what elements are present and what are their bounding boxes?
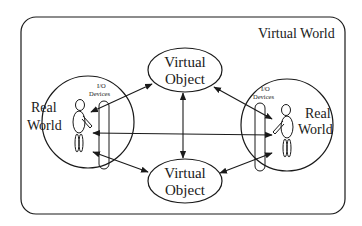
real-world-left-label-line2: World: [27, 118, 62, 133]
real-world-left: Real World I/O Devices: [27, 76, 134, 169]
real-world-right-label-line2: World: [298, 122, 333, 137]
virtual-object-bottom-line2: Object: [165, 182, 206, 198]
person-icon-left: [73, 100, 92, 153]
io-devices-right-label-line1: I/O: [261, 85, 270, 92]
virtual-world-diagram: Virtual World Real World I/O Devices Rea…: [0, 0, 362, 226]
arrow-right-to-bottom-object: [220, 153, 272, 173]
real-world-right: Real World I/O Devices: [241, 79, 333, 171]
io-devices-right-label-line2: Devices: [253, 93, 274, 100]
virtual-object-top: Virtual Object: [148, 48, 222, 92]
real-world-left-label-line1: Real: [31, 100, 57, 115]
io-devices-left-label-line1: I/O: [97, 82, 106, 89]
virtual-world-label: Virtual World: [258, 26, 335, 41]
virtual-object-top-line2: Object: [165, 71, 206, 87]
virtual-object-bottom: Virtual Object: [148, 159, 222, 203]
real-world-right-label-line1: Real: [305, 106, 331, 121]
io-devices-left-label-line2: Devices: [89, 90, 110, 97]
virtual-object-bottom-line1: Virtual: [164, 165, 206, 181]
person-icon-right: [273, 105, 293, 158]
io-device-bar-right: [255, 103, 265, 171]
io-device-bar-left: [99, 101, 109, 169]
virtual-object-top-line1: Virtual: [164, 54, 206, 70]
